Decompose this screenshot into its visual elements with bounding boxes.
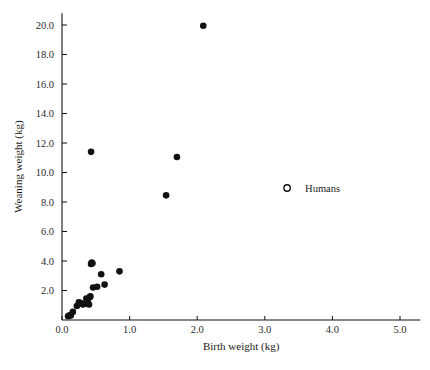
y-tick-label: 6.0	[41, 226, 54, 237]
data-point	[98, 271, 105, 278]
x-axis-title: Birth weight (kg)	[203, 340, 280, 353]
data-point	[200, 22, 207, 29]
data-point	[89, 260, 96, 267]
data-point	[70, 309, 77, 316]
x-tick-label: 4.0	[326, 324, 339, 335]
data-point	[88, 149, 95, 156]
y-tick-label: 16.0	[36, 79, 54, 90]
legend-label-humans: Humans	[305, 183, 340, 194]
y-axis-title: Weaning weight (kg)	[12, 120, 25, 213]
x-tick-label: 2.0	[191, 324, 204, 335]
data-point	[86, 301, 93, 308]
x-tick-label: 5.0	[393, 324, 406, 335]
y-tick-label: 18.0	[36, 49, 54, 60]
data-point	[116, 268, 123, 275]
x-tick-label: 3.0	[258, 324, 271, 335]
x-tick-label: 0.0	[55, 324, 68, 335]
data-point	[87, 293, 94, 300]
y-tick-label: 8.0	[41, 197, 54, 208]
data-point	[94, 284, 101, 291]
axes-group	[62, 13, 420, 320]
y-tick-label: 14.0	[36, 108, 54, 119]
y-tick-label: 4.0	[41, 256, 54, 267]
y-tick-label: 10.0	[36, 167, 54, 178]
x-tick-label: 1.0	[123, 324, 136, 335]
y-tick-label: 12.0	[36, 138, 54, 149]
data-point	[101, 281, 108, 288]
scatter-plot-figure: 0.01.02.03.04.05.02.04.06.08.010.012.014…	[0, 0, 430, 370]
data-point	[163, 192, 170, 199]
legend-marker-humans	[284, 185, 290, 191]
y-tick-label: 20.0	[36, 20, 54, 31]
x-tick-group: 0.01.02.03.04.05.0	[55, 316, 406, 335]
data-point	[174, 154, 181, 161]
series-primates	[65, 22, 207, 319]
plot-canvas: 0.01.02.03.04.05.02.04.06.08.010.012.014…	[0, 0, 430, 370]
legend: Humans	[284, 183, 340, 194]
y-tick-label: 2.0	[41, 285, 54, 296]
